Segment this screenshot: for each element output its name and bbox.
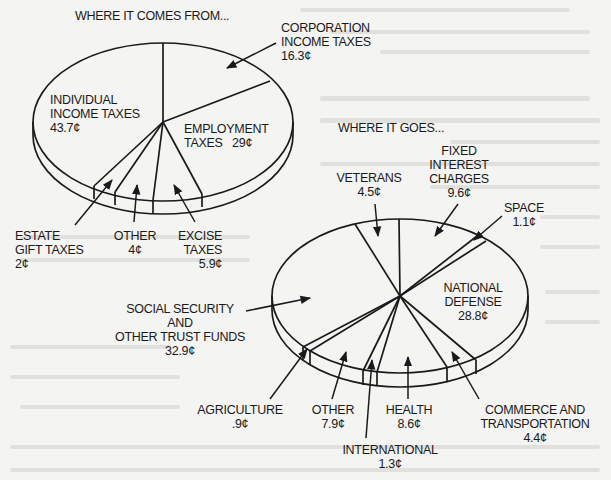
- label-line: SPACE: [496, 201, 552, 215]
- label-line: INTERNATIONAL: [340, 443, 440, 457]
- label-line: SOCIAL SECURITY: [106, 302, 254, 316]
- label-social-security: SOCIAL SECURITY AND OTHER TRUST FUNDS 32…: [106, 302, 254, 358]
- label-veterans: VETERANS 4.5¢: [334, 171, 404, 199]
- label-line: NATIONAL: [438, 281, 508, 295]
- label-national-defense: NATIONAL DEFENSE 28.8¢: [438, 281, 508, 323]
- label-line: OTHER: [110, 229, 160, 243]
- label-line: DEFENSE: [438, 295, 508, 309]
- label-corporation-income-taxes: CORPORATION INCOME TAXES 16.3¢: [281, 21, 371, 63]
- label-fixed-interest-charges: FIXED INTEREST CHARGES 9.6¢: [422, 144, 496, 200]
- label-line: EXCISE: [168, 229, 222, 243]
- label-other-spending: OTHER 7.9¢: [307, 403, 359, 431]
- label-line: TRANSPORTATION: [475, 417, 595, 431]
- label-line: FIXED: [422, 144, 496, 158]
- label-health: HEALTH 8.6¢: [381, 403, 437, 431]
- label-line: CHARGES: [422, 172, 496, 186]
- label-line: INDIVIDUAL: [50, 93, 140, 107]
- label-line: TAXES: [168, 243, 222, 257]
- label-value: 4.4¢: [475, 431, 595, 445]
- label-value: 28.8¢: [438, 309, 508, 323]
- label-individual-income-taxes: INDIVIDUAL INCOME TAXES 43.7¢: [50, 93, 140, 135]
- label-employment-taxes: EMPLOYMENT TAXES 29¢: [184, 122, 269, 150]
- label-line: EMPLOYMENT: [184, 122, 269, 136]
- label-line: GIFT TAXES: [15, 243, 84, 257]
- label-line: TAXES 29¢: [184, 136, 269, 150]
- label-space: SPACE 1.1¢: [496, 201, 552, 229]
- label-value: 1.3¢: [340, 457, 440, 471]
- label-value: .9¢: [190, 417, 290, 431]
- label-line: OTHER: [307, 403, 359, 417]
- label-value: 4¢: [110, 243, 160, 257]
- label-estate-gift-taxes: ESTATE GIFT TAXES 2¢: [15, 229, 84, 271]
- label-other-income: OTHER 4¢: [110, 229, 160, 257]
- label-value: 2¢: [15, 257, 84, 271]
- spending-chart-title: WHERE IT GOES...: [338, 121, 444, 135]
- label-line: ESTATE: [15, 229, 84, 243]
- label-line: VETERANS: [334, 171, 404, 185]
- label-value: 4.5¢: [334, 185, 404, 199]
- label-line: OTHER TRUST FUNDS: [106, 330, 254, 344]
- label-international: INTERNATIONAL 1.3¢: [340, 443, 440, 471]
- label-line: CORPORATION: [281, 21, 371, 35]
- label-value: 1.1¢: [496, 215, 552, 229]
- label-line: INCOME TAXES: [50, 107, 140, 121]
- label-line: AND: [106, 316, 254, 330]
- label-excise-taxes: EXCISE TAXES 5.9¢: [168, 229, 222, 271]
- label-line: HEALTH: [381, 403, 437, 417]
- label-line: INCOME TAXES: [281, 35, 371, 49]
- label-line: INTEREST: [422, 158, 496, 172]
- label-line: COMMERCE AND: [475, 403, 595, 417]
- label-value: 5.9¢: [168, 257, 222, 271]
- income-chart-title: WHERE IT COMES FROM...: [75, 9, 229, 23]
- label-value: 32.9¢: [106, 344, 254, 358]
- label-value: 7.9¢: [307, 417, 359, 431]
- label-agriculture: AGRICULTURE .9¢: [190, 403, 290, 431]
- label-line: AGRICULTURE: [190, 403, 290, 417]
- label-value: 16.3¢: [281, 49, 371, 63]
- label-value: 43.7¢: [50, 121, 140, 135]
- label-value: 8.6¢: [381, 417, 437, 431]
- label-value: 9.6¢: [422, 186, 496, 200]
- label-commerce-transportation: COMMERCE AND TRANSPORTATION 4.4¢: [475, 403, 595, 445]
